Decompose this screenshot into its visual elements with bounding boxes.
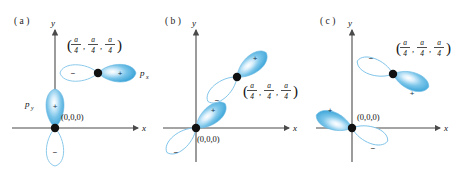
panel-a-label: ( a ) [14,16,29,27]
panel-b-y-axis-label: y [191,18,196,28]
corner-comma-a1: , [83,41,85,51]
panel-a-y-axis-label: y [50,18,55,28]
fraction-c1: a 4 [400,38,410,58]
corner-close-paren-a: ) [117,37,122,54]
fraction-numerator: a [74,35,78,44]
b-origin-negative-sign: − [174,148,179,157]
fraction-numerator: a [284,81,288,90]
fraction-denominator: 4 [420,49,424,58]
corner-comma-b1: , [259,87,261,97]
px-orbital-name: p x [139,68,149,80]
c-corner-positive-sign: + [410,89,415,98]
fraction-b3: a 4 [281,81,291,101]
corner-open-paren-c: ( [396,40,401,57]
panel-b-corner-coordinate: ( a 4 , a 4 , a 4 ) [243,81,298,101]
px-negative-sign: − [71,69,76,78]
panel-a-corner-dot [94,69,102,77]
c-origin-positive-sign: + [328,106,333,115]
fraction-c3: a 4 [434,38,444,58]
panel-c: ( c ) x y + − − + (0,0,0) ( [313,16,451,162]
fraction-denominator: 4 [74,46,78,55]
fraction-denominator: 4 [250,92,254,101]
panel-b: ( b ) x y − + − + (0,0,0) ( [161,16,298,162]
fraction-denominator: 4 [267,92,271,101]
panel-b-origin-dot [192,124,200,132]
fraction-numerator: a [437,38,441,47]
c-corner-negative-sign: − [369,54,374,63]
panel-b-origin-label: (0,0,0) [197,134,220,144]
fraction-numerator: a [250,81,254,90]
panel-a-origin-label: (0,0,0) [61,112,84,122]
corner-open-paren-a: ( [67,37,72,54]
c-corner-negative-lobe [354,53,395,82]
corner-comma-b2: , [276,87,278,97]
panel-a: ( a ) x y + − p y − + p x [12,16,149,166]
px-orbital-name-subscript: x [145,74,149,80]
corner-open-paren-b: ( [243,83,248,100]
fraction-denominator: 4 [91,46,95,55]
b-origin-positive-sign: + [211,106,216,115]
panel-a-corner-coordinate: ( a 4 , a 4 , a 4 ) [67,35,122,55]
fraction-a3: a 4 [105,35,115,55]
fraction-a1: a 4 [71,35,81,55]
fraction-b1: a 4 [247,81,257,101]
py-negative-sign: − [53,148,58,157]
panel-b-label: ( b ) [165,16,181,27]
b-corner-positive-sign: + [253,54,258,63]
panel-c-y-axis-label: y [347,18,352,28]
fraction-denominator: 4 [108,46,112,55]
fraction-numerator: a [420,38,424,47]
panel-c-x-axis-label: x [443,123,448,133]
fraction-numerator: a [91,35,95,44]
fraction-c2: a 4 [417,38,427,58]
corner-comma-a2: , [100,41,102,51]
fraction-b2: a 4 [264,81,274,101]
fraction-denominator: 4 [284,92,288,101]
corner-comma-c1: , [412,44,414,54]
py-orbital-name: p y [24,99,34,111]
panel-c-corner-dot [389,70,397,78]
fraction-numerator: a [403,38,407,47]
py-orbital-name-base: p [24,99,30,109]
panel-a-orbital-px: − + p x [60,64,149,82]
corner-close-paren-c: ) [446,40,451,57]
orbital-figure: ( a ) x y + − p y − + p x [0,0,469,174]
fraction-numerator: a [108,35,112,44]
panel-a-x-axis-label: x [141,123,146,133]
px-negative-lobe [60,65,98,82]
fraction-denominator: 4 [437,49,441,58]
panel-b-corner-dot [233,73,241,81]
fraction-a2: a 4 [88,35,98,55]
c-origin-negative-sign: − [371,144,376,153]
c-origin-positive-lobe [313,107,355,137]
fraction-denominator: 4 [403,49,407,58]
py-orbital-name-subscript: y [30,105,34,111]
px-orbital-name-base: p [139,68,145,78]
panel-c-origin-label: (0,0,0) [357,112,380,122]
px-positive-sign: + [118,69,123,78]
panel-c-label: ( c ) [320,16,335,27]
py-positive-sign: + [53,102,58,111]
b-corner-negative-sign: − [215,96,220,105]
panel-b-x-axis-label: x [292,123,297,133]
panel-c-origin-dot [348,124,356,132]
corner-close-paren-b: ) [293,83,298,100]
corner-comma-c2: , [429,44,431,54]
panel-a-origin-dot [51,124,59,132]
panel-c-corner-coordinate: ( a 4 , a 4 , a 4 ) [396,38,451,58]
fraction-numerator: a [267,81,271,90]
